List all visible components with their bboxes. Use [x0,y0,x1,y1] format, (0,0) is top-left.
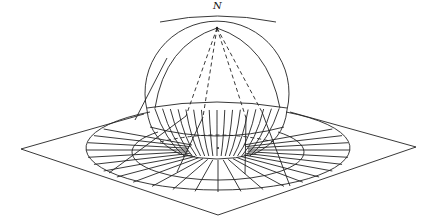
diagram-canvas: N [0,0,428,222]
sphere-outline [145,21,289,110]
projection-diagram [0,0,428,222]
tangent-plane [21,112,416,215]
equator-back [147,102,287,108]
north-pole-label: N [213,0,222,11]
